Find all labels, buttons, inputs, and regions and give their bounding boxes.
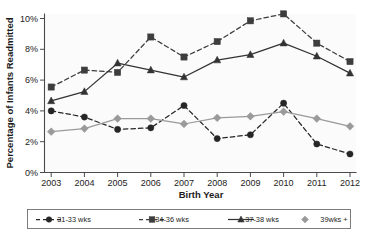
legend-label: 34-36 wks — [155, 215, 189, 224]
legend-label: 37-38 wks — [245, 215, 279, 224]
data-point — [81, 114, 87, 120]
x-tick-label: 2011 — [307, 178, 326, 188]
data-point — [181, 54, 187, 60]
y-tick-label: 0% — [25, 168, 38, 178]
x-tick-label: 2003 — [41, 178, 61, 188]
data-point — [115, 126, 121, 132]
legend-label: 31-33 wks — [57, 215, 91, 224]
plot-area-background — [44, 14, 356, 172]
x-tick-label: 2010 — [274, 178, 294, 188]
data-point — [247, 132, 253, 138]
data-point — [314, 40, 320, 46]
line-chart-canvas: 0% 2% 4% 6% 8% 10% 2003 2004 2005 2006 2… — [0, 0, 366, 234]
y-axis-title: Percentage of Infants Readmitted — [4, 17, 15, 168]
data-point — [48, 84, 54, 90]
data-point — [347, 151, 353, 157]
data-point — [281, 11, 287, 17]
y-tick-label: 2% — [25, 137, 38, 147]
data-point — [181, 102, 187, 108]
y-tick-label: 8% — [25, 44, 38, 54]
y-tick-label: 10% — [20, 14, 38, 24]
x-tick-label: 2008 — [207, 178, 227, 188]
data-point — [115, 69, 121, 75]
data-point — [148, 34, 154, 40]
data-point — [347, 59, 353, 65]
chart-figure: 0% 2% 4% 6% 8% 10% 2003 2004 2005 2006 2… — [0, 0, 366, 234]
y-tick-label: 6% — [25, 75, 38, 85]
data-point — [214, 39, 220, 45]
data-point — [81, 67, 87, 73]
y-tick-label: 4% — [25, 106, 38, 116]
data-point — [214, 136, 220, 142]
data-point — [148, 125, 154, 131]
legend-marker-swatch — [46, 217, 52, 223]
x-tick-label: 2004 — [74, 178, 94, 188]
data-point — [281, 100, 287, 106]
x-tick-label: 2012 — [340, 178, 360, 188]
legend-label: 39wks + — [320, 215, 347, 224]
legend-marker-swatch — [149, 217, 155, 223]
x-tick-label: 2006 — [141, 178, 161, 188]
x-tick-label: 2007 — [174, 178, 194, 188]
data-point — [247, 18, 253, 24]
x-axis-title: Birth Year — [179, 189, 224, 200]
x-tick-label: 2009 — [240, 178, 260, 188]
data-point — [314, 141, 320, 147]
data-point — [48, 108, 54, 114]
x-tick-label: 2005 — [108, 178, 128, 188]
